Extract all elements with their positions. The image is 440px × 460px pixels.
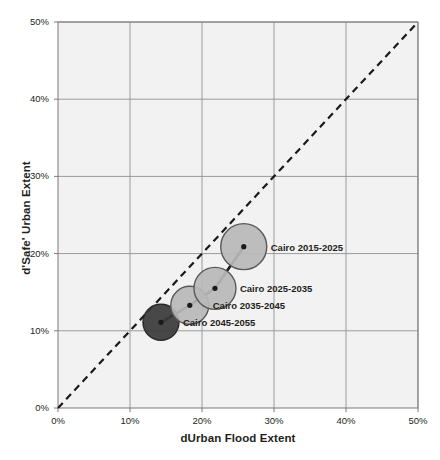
bubble-chart: dUrban Flood Extent d'Safe' Urban Extent… bbox=[0, 0, 440, 460]
data-point-label: Cairo 2015-2025 bbox=[271, 242, 343, 253]
y-axis-tick-label: 10% bbox=[9, 325, 49, 336]
data-point-label: Cairo 2045-2055 bbox=[183, 317, 255, 328]
x-axis-tick-label: 20% bbox=[182, 415, 222, 426]
x-axis-tick-label: 30% bbox=[254, 415, 294, 426]
y-axis-tick-label: 30% bbox=[9, 170, 49, 181]
y-axis-title: d'Safe' Urban Extent bbox=[20, 108, 32, 328]
y-axis-tick-label: 20% bbox=[9, 248, 49, 259]
y-axis-tick-label: 40% bbox=[9, 93, 49, 104]
x-axis-title: dUrban Flood Extent bbox=[58, 432, 418, 444]
data-point-label: Cairo 2025-2035 bbox=[240, 283, 312, 294]
data-point-center-dot bbox=[187, 303, 192, 308]
data-point-center-dot bbox=[241, 244, 246, 249]
data-point-center-dot bbox=[158, 320, 163, 325]
x-axis-tick-label: 50% bbox=[398, 415, 438, 426]
y-axis-tick-label: 50% bbox=[9, 16, 49, 27]
y-axis-tick-label: 0% bbox=[9, 402, 49, 413]
x-axis-tick-label: 0% bbox=[38, 415, 78, 426]
data-point-label: Cairo 2035-2045 bbox=[213, 300, 285, 311]
plot-area bbox=[0, 0, 440, 460]
data-point-center-dot bbox=[212, 286, 217, 291]
x-axis-tick-label: 40% bbox=[326, 415, 366, 426]
x-axis-tick-label: 10% bbox=[110, 415, 150, 426]
